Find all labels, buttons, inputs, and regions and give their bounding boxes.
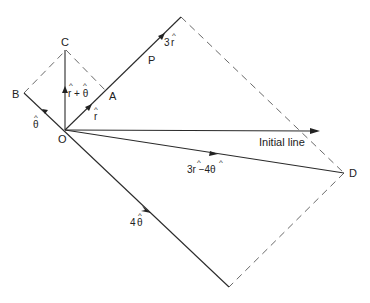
initial-line (65, 130, 312, 131)
label-4theta: ^ 4 θ (130, 211, 143, 228)
label-r-plus-theta: ^ ^ r + θ (68, 81, 89, 99)
label-3r: ^ 3 r (164, 31, 176, 48)
svg-text:θ: θ (33, 119, 39, 130)
svg-text:3: 3 (164, 37, 170, 48)
three-r-minus-four-theta-arrowhead (209, 151, 218, 156)
svg-text:3r −4θ: 3r −4θ (187, 164, 216, 175)
svg-text:^: ^ (219, 158, 223, 167)
label-B: B (12, 88, 19, 100)
svg-text:θ: θ (137, 217, 143, 228)
label-C: C (61, 36, 69, 48)
label-P: P (148, 54, 155, 66)
initial-line-label: Initial line (259, 136, 305, 148)
polar-unit-vector-diagram: C B A O P D ^ r ^ θ ^ ^ r + θ ^ 3 r ^ 4 … (0, 0, 370, 303)
four-theta-arrowhead (141, 206, 151, 213)
label-O: O (58, 133, 67, 145)
label-r-hat: ^ r (94, 105, 98, 122)
label-theta-hat: ^ θ (33, 113, 39, 130)
label-D: D (349, 167, 357, 179)
initial-line-arrowhead (310, 128, 320, 134)
dashed-B-C (24, 50, 66, 93)
dashed-top-D (181, 17, 344, 173)
label-3r-minus-4theta: ^ ^ 3r −4θ (187, 158, 223, 175)
svg-text:r + θ: r + θ (68, 88, 89, 99)
dashed-D-bottom (229, 173, 344, 287)
svg-text:4: 4 (130, 217, 136, 228)
label-A: A (109, 90, 117, 102)
theta-direction-line (24, 93, 229, 287)
